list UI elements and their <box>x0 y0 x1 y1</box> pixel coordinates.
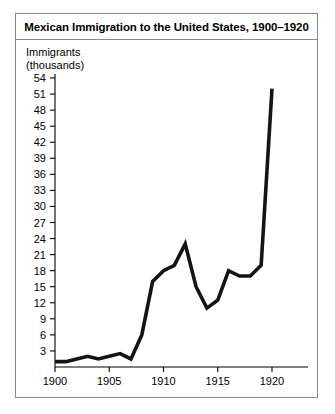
x-tick-marks <box>55 367 272 372</box>
y-tick-label: 27 <box>34 217 46 229</box>
x-tick-label: 1910 <box>151 375 175 387</box>
chart-screenshot: Mexican Immigration to the United States… <box>0 0 335 414</box>
chart-frame: Mexican Immigration to the United States… <box>15 13 318 398</box>
y-tick-label: 24 <box>34 233 46 245</box>
y-tick-label: 15 <box>34 281 46 293</box>
y-tick-label: 9 <box>40 313 46 325</box>
y-tick-label: 48 <box>34 104 46 116</box>
x-tick-label: 1915 <box>206 375 230 387</box>
y-tick-label: 54 <box>34 72 46 84</box>
plot-area: 369121518212427303336394245485154 190019… <box>16 14 317 397</box>
y-tick-label: 51 <box>34 88 46 100</box>
x-tick-label: 1920 <box>260 375 284 387</box>
x-tick-labels: 19001905191019151920 <box>43 375 284 387</box>
y-tick-label: 6 <box>40 329 46 341</box>
y-tick-label: 18 <box>34 265 46 277</box>
x-tick-label: 1905 <box>97 375 121 387</box>
y-tick-label: 45 <box>34 120 46 132</box>
data-series-line <box>55 89 272 362</box>
y-tick-label: 39 <box>34 152 46 164</box>
y-tick-label: 33 <box>34 184 46 196</box>
y-tick-label: 36 <box>34 168 46 180</box>
y-tick-marks <box>50 78 55 351</box>
y-tick-label: 30 <box>34 200 46 212</box>
y-tick-label: 12 <box>34 297 46 309</box>
line-chart-svg: 369121518212427303336394245485154 190019… <box>16 14 317 397</box>
y-tick-label: 42 <box>34 136 46 148</box>
x-tick-label: 1900 <box>43 375 67 387</box>
y-tick-label: 3 <box>40 345 46 357</box>
y-tick-label: 21 <box>34 249 46 261</box>
y-tick-labels: 369121518212427303336394245485154 <box>34 72 46 357</box>
